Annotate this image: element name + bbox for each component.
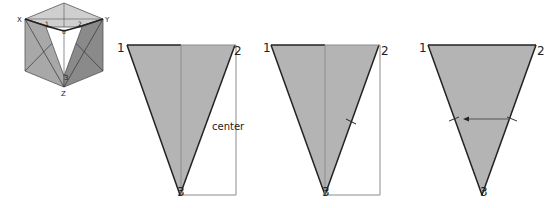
center-annotation: center [212,121,245,132]
triangle-fill [428,45,536,195]
vertex-label-2: 2 [234,44,242,58]
cube-label-2: 2 [78,20,82,27]
triangle-panel-1: 1 2 3 center [117,41,245,199]
vertex-label-2: 2 [537,44,545,58]
cube-illustration: X Y Z 1 2 0 3 [17,3,110,98]
cube-label-z: Z [61,90,66,98]
vertex-label-1: 1 [117,41,125,55]
diagram-canvas: X Y Z 1 2 0 3 1 2 3 center 1 2 3 [0,0,560,208]
cube-label-y: Y [104,16,110,24]
vertex-label-3: 3 [322,185,330,199]
triangle-panel-3: 1 2 3 [419,41,545,199]
cube-label-1: 1 [45,20,49,27]
vertex-label-3: 3 [177,185,185,199]
vertex-label-1: 1 [419,41,427,55]
vertex-label-1: 1 [263,41,271,55]
triangle-panel-2: 1 2 3 [263,41,389,199]
vertex-label-2: 2 [381,44,389,58]
vertex-label-3: 3 [480,185,488,199]
cube-label-origin: 0 [62,28,66,35]
cube-label-3: 3 [64,74,68,82]
cube-label-x: X [17,16,22,24]
